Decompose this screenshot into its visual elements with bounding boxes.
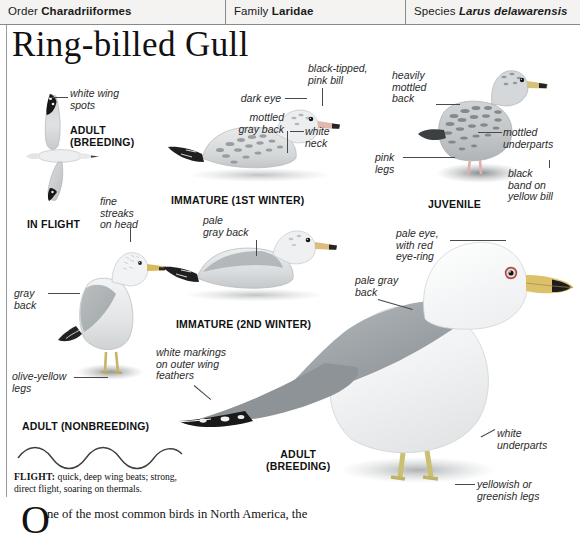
label-dark-eye: dark eye: [223, 93, 281, 105]
label-white-neck: white neck: [305, 126, 351, 149]
label-mottled-underparts: mottled underparts: [503, 127, 577, 150]
taxonomy-order-value: Charadriiformes: [41, 5, 131, 17]
caption-adult-breeding-large: ADULT (BREEDING): [266, 448, 330, 472]
leader-mottled-gray-back: [287, 131, 288, 153]
taxonomy-species-value: Larus delawarensis: [459, 5, 568, 17]
flight-pattern-squiggle: [16, 444, 186, 466]
caption-adult-breeding-flight: ADULT (BREEDING): [70, 124, 134, 148]
leader-black-band-on-yellow-bill: [549, 160, 550, 168]
flight-note: FLIGHT: quick, deep wing beats; strong, …: [14, 471, 190, 496]
leader-pink-legs: [403, 157, 455, 158]
leader-dark-eye: [285, 98, 307, 99]
taxonomy-order-key: Order: [8, 5, 41, 17]
leader-white-wing-spots: [50, 97, 68, 98]
field-guide-page: Order Charadriiformes Family Laridae Spe…: [0, 0, 580, 540]
taxonomy-order-cell: Order Charadriiformes: [0, 0, 226, 24]
label-yellowish-or-greenish-legs: yellowish or greenish legs: [477, 479, 555, 502]
label-pale-gray-back-large: pale gray back: [355, 275, 417, 298]
label-olive-yellow-legs: olive-yellow legs: [12, 371, 84, 394]
illustration-adult-nonbreeding: [58, 226, 168, 386]
leader-white-neck: [290, 131, 304, 132]
left-margin-rule: [6, 25, 7, 497]
body-text-dropcap: O: [21, 500, 50, 540]
leader-gray-back: [48, 293, 80, 294]
leader-olive-yellow-legs: [74, 377, 108, 378]
label-black-tipped-pink-bill: black-tipped, pink bill: [308, 63, 388, 86]
label-pale-eye-with-red-eye-ring: pale eye, with red eye-ring: [396, 228, 462, 263]
label-fine-streaks-on-head: fine streaks on head: [100, 196, 160, 231]
label-gray-back: gray back: [14, 288, 62, 311]
taxonomy-species-key: Species: [414, 5, 459, 17]
leader-fine-streaks-on-head: [130, 228, 131, 242]
page-title: Ring-billed Gull: [12, 27, 249, 62]
label-white-underparts: white underparts: [497, 428, 561, 451]
leader-mottled-underparts: [478, 132, 502, 133]
label-white-markings-on-outer-wing-feathers: white markings on outer wing feathers: [156, 347, 254, 382]
body-text-paragraph: ne of the most common birds in North Ame…: [47, 506, 377, 523]
flight-note-label: FLIGHT:: [14, 471, 55, 482]
label-white-wing-spots: white wing spots: [70, 88, 140, 111]
caption-immature-1st-winter: IMMATURE (1ST WINTER): [171, 194, 305, 206]
taxonomy-family-key: Family: [234, 5, 272, 17]
taxonomy-family-value: Laridae: [272, 5, 314, 17]
label-mottled-gray-back: mottled gray back: [210, 112, 284, 135]
caption-juvenile: JUVENILE: [428, 198, 481, 210]
label-heavily-mottled-back: heavily mottled back: [392, 70, 450, 105]
label-pink-legs: pink legs: [375, 152, 413, 175]
taxonomy-species-cell: Species Larus delawarensis: [406, 0, 580, 24]
caption-adult-nonbreeding: ADULT (NONBREEDING): [22, 420, 149, 432]
taxonomy-header: Order Charadriiformes Family Laridae Spe…: [0, 0, 580, 25]
leader-heavily-mottled-back: [436, 104, 460, 105]
label-black-band-on-yellow-bill: black band on yellow bill: [508, 168, 574, 203]
leader-yellowish-or-greenish-legs: [455, 484, 475, 485]
leader-black-tipped-pink-bill: [322, 88, 323, 106]
taxonomy-family-cell: Family Laridae: [226, 0, 406, 24]
leader-pale-eye-with-red-eye-ring: [450, 240, 506, 241]
